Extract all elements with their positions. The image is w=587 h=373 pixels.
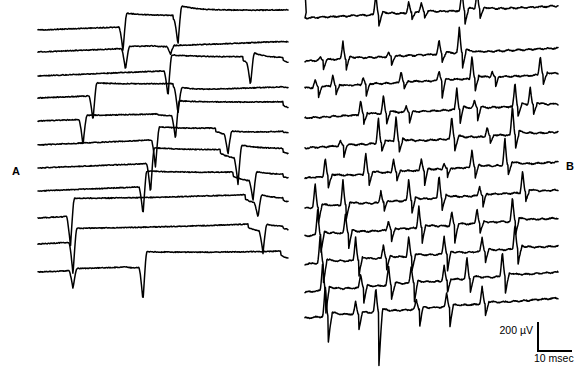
recording-trace bbox=[305, 254, 558, 313]
recording-trace bbox=[305, 84, 558, 124]
recording-trace bbox=[38, 41, 288, 68]
scale-bar: 200 µV 10 msec bbox=[478, 318, 582, 366]
scale-bar-time-label: 10 msec bbox=[534, 352, 574, 364]
scale-bar-voltage-label: 200 µV bbox=[478, 324, 533, 336]
panel-label-b: B bbox=[566, 160, 574, 172]
recording-trace bbox=[38, 171, 288, 212]
panel-label-a: A bbox=[12, 165, 20, 177]
recording-trace bbox=[305, 172, 558, 223]
recording-trace bbox=[305, 27, 558, 70]
recording-trace bbox=[305, 57, 558, 98]
recording-trace bbox=[38, 224, 288, 273]
recording-trace bbox=[38, 83, 288, 118]
recording-trace bbox=[305, 199, 558, 252]
figure-root: A B 200 µV 10 msec bbox=[0, 0, 587, 373]
panel-a-traces bbox=[38, 6, 288, 297]
recording-trace bbox=[38, 251, 288, 297]
scale-bar-vertical-rule bbox=[537, 322, 539, 352]
recording-trace bbox=[38, 101, 288, 144]
panel-b-traces bbox=[305, 0, 558, 365]
recording-trace bbox=[305, 0, 558, 26]
